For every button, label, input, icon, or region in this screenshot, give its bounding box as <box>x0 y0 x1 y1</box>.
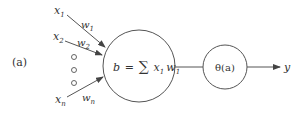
svg-text:xn: xn <box>55 93 66 108</box>
panel-label: (a) <box>12 56 27 69</box>
svg-text:x1: x1 <box>54 4 65 19</box>
neuron-diagram: (a) x1 w1 x2 w2 xn wn b = ∑ x1w1 θ <box>0 0 301 115</box>
ellipsis-dots <box>72 55 77 86</box>
svg-text:b = ∑ x1w1: b = ∑ x1w1 <box>113 58 180 76</box>
svg-text:θ(a): θ(a) <box>215 62 235 73</box>
svg-text:w2: w2 <box>77 37 91 51</box>
svg-text:w1: w1 <box>81 19 94 33</box>
input-xn: xn wn <box>55 77 103 108</box>
output-label: y <box>283 61 291 74</box>
summation-node: b = ∑ x1w1 <box>103 30 180 102</box>
svg-text:wn: wn <box>82 92 96 106</box>
svg-text:x2: x2 <box>53 30 64 45</box>
activation-node: θ(a) <box>203 45 247 89</box>
input-x2: x2 w2 <box>53 30 102 55</box>
